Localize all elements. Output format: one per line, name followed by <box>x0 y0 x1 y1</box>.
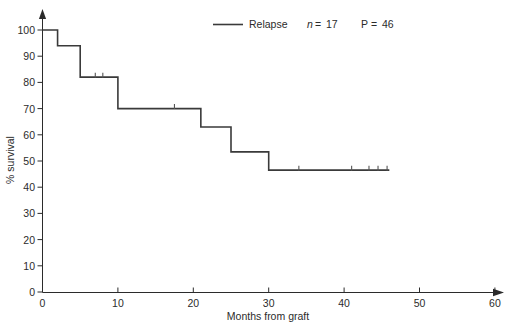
legend-p-equals: = <box>371 18 377 30</box>
legend-n-equals: = <box>315 18 321 30</box>
y-tick-label: 100 <box>17 24 35 36</box>
x-tick-label: 20 <box>187 297 199 309</box>
y-axis-arrow-icon <box>39 9 46 19</box>
chart-legend: Relapse n = 17 P = 46 <box>213 18 394 30</box>
y-axis-title: % survival <box>4 136 16 184</box>
survival-chart-figure: Relapse n = 17 P = 46 0 <box>0 0 515 324</box>
y-tick-label: 70 <box>23 103 35 115</box>
y-tick-label: 50 <box>23 155 35 167</box>
censor-marks-group <box>95 73 387 171</box>
x-tick-label: 10 <box>112 297 124 309</box>
x-tick-label: 40 <box>338 297 350 309</box>
y-tick-label: 0 <box>29 286 35 298</box>
y-tick-label: 90 <box>23 50 35 62</box>
x-axis: 0 10 20 30 40 50 60 Months from graft <box>40 288 504 323</box>
x-axis-title: Months from graft <box>227 310 309 322</box>
legend-p-symbol: P <box>361 18 368 30</box>
chart-canvas: Relapse n = 17 P = 46 0 <box>0 0 515 324</box>
x-tick-label: 50 <box>414 297 426 309</box>
y-tick-label: 10 <box>23 260 35 272</box>
legend-n-symbol: n <box>307 18 313 30</box>
survival-curve-group <box>43 30 390 171</box>
legend-series-label: Relapse <box>249 18 288 30</box>
y-tick-label: 20 <box>23 234 35 246</box>
relapse-survival-curve <box>43 30 390 170</box>
legend-p-value: 46 <box>382 18 394 30</box>
y-tick-label: 60 <box>23 129 35 141</box>
y-axis: 0 10 20 30 40 50 60 70 80 90 100 % survi… <box>4 9 46 298</box>
y-tick-label: 80 <box>23 76 35 88</box>
legend-n-value: 17 <box>326 18 338 30</box>
x-tick-label: 0 <box>40 297 46 309</box>
y-tick-label: 40 <box>23 181 35 193</box>
x-tick-label: 60 <box>489 297 501 309</box>
x-tick-label: 30 <box>263 297 275 309</box>
y-tick-label: 30 <box>23 207 35 219</box>
